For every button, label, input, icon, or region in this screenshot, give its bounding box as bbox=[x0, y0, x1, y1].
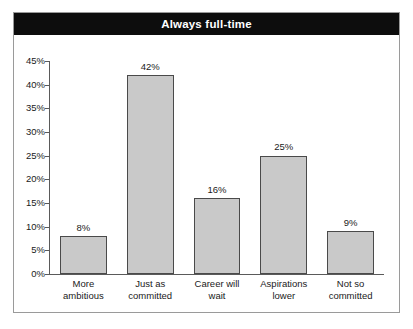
bar-slot: 25% bbox=[250, 61, 317, 274]
y-axis-tick-label: 45% bbox=[26, 56, 45, 66]
x-axis-category-line: committed bbox=[117, 290, 184, 302]
x-axis-category-line: Not so bbox=[317, 278, 384, 290]
bar-series: 8%42%16%25%9% bbox=[50, 61, 384, 274]
x-axis-line bbox=[49, 274, 384, 275]
y-axis-tick-mark bbox=[45, 250, 49, 251]
y-axis-tick-label: 0% bbox=[31, 269, 45, 279]
x-axis-category-line: ambitious bbox=[50, 290, 117, 302]
x-axis-category-line: Just as bbox=[117, 278, 184, 290]
bar-value-label: 42% bbox=[117, 62, 184, 72]
x-axis-category-label: Just ascommitted bbox=[117, 278, 184, 301]
y-axis-tick-label: 20% bbox=[26, 175, 45, 185]
y-axis-tick-mark bbox=[45, 179, 49, 180]
plot-area: 0%5%10%15%20%25%30%35%40%45% 8%42%16%25%… bbox=[14, 35, 399, 312]
y-axis-tick-mark bbox=[45, 156, 49, 157]
x-axis-category-label: Moreambitious bbox=[50, 278, 117, 301]
y-axis-tick-label: 10% bbox=[26, 222, 45, 232]
x-axis-category-line: Career will bbox=[184, 278, 251, 290]
x-axis-category-line: Aspirations bbox=[250, 278, 317, 290]
bar-slot: 8% bbox=[50, 61, 117, 274]
y-axis-tick-label: 35% bbox=[26, 104, 45, 114]
bar[interactable] bbox=[327, 231, 374, 274]
chart-title: Always full-time bbox=[161, 18, 252, 30]
y-axis-tick-label: 5% bbox=[31, 246, 45, 256]
bar-slot: 16% bbox=[184, 61, 251, 274]
x-axis-labels: MoreambitiousJust ascommittedCareer will… bbox=[50, 278, 384, 312]
bar-slot: 42% bbox=[117, 61, 184, 274]
bar[interactable] bbox=[194, 198, 241, 274]
bar-value-label: 8% bbox=[50, 223, 117, 233]
x-axis-category-label: Career willwait bbox=[184, 278, 251, 301]
y-axis-tick-label: 30% bbox=[26, 127, 45, 137]
y-axis-tick-label: 25% bbox=[26, 151, 45, 161]
bar-value-label: 16% bbox=[184, 185, 251, 195]
y-axis-tick-mark bbox=[45, 203, 49, 204]
bar[interactable] bbox=[60, 236, 107, 274]
y-axis-tick-mark bbox=[45, 227, 49, 228]
bar[interactable] bbox=[260, 156, 307, 274]
y-axis-tick-label: 15% bbox=[26, 198, 45, 208]
bar[interactable] bbox=[127, 75, 174, 274]
bar-value-label: 9% bbox=[317, 218, 384, 228]
y-axis-tick-mark bbox=[45, 85, 49, 86]
chart-title-bar: Always full-time bbox=[14, 13, 399, 35]
x-axis-category-line: committed bbox=[317, 290, 384, 302]
x-axis-category-line: lower bbox=[250, 290, 317, 302]
chart-figure: Always full-time 0%5%10%15%20%25%30%35%4… bbox=[13, 12, 400, 313]
x-axis-category-line: wait bbox=[184, 290, 251, 302]
x-axis-category-label: Aspirationslower bbox=[250, 278, 317, 301]
y-axis-tick-mark bbox=[45, 274, 49, 275]
y-axis-labels: 0%5%10%15%20%25%30%35%40%45% bbox=[14, 61, 45, 274]
y-axis-tick-label: 40% bbox=[26, 80, 45, 90]
x-axis-category-line: More bbox=[50, 278, 117, 290]
y-axis-tick-mark bbox=[45, 108, 49, 109]
y-axis-tick-mark bbox=[45, 61, 49, 62]
bar-value-label: 25% bbox=[250, 142, 317, 152]
y-axis-tick-mark bbox=[45, 132, 49, 133]
bar-slot: 9% bbox=[317, 61, 384, 274]
x-axis-category-label: Not socommitted bbox=[317, 278, 384, 301]
